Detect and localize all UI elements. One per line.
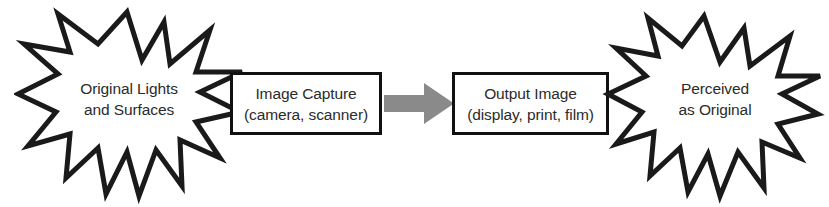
right-arrow-icon [384,83,454,124]
node-output-image: Output Image (display, print, film) [452,72,609,135]
node-perceived-label: Perceived as Original [600,78,829,120]
node-output-label-line2: (display, print, film) [467,104,594,125]
node-perceived-as-original: Perceived as Original [600,0,829,207]
node-image-capture: Image Capture (camera, scanner) [230,72,382,135]
node-perceived-label-line2: as Original [600,99,829,120]
node-capture-label-line1: Image Capture [244,83,368,104]
node-perceived-label-line1: Perceived [600,78,829,99]
arrow-capture-to-output [384,83,454,124]
node-original-lights-and-surfaces: Original Lights and Surfaces [14,0,244,207]
node-capture-label: Image Capture (camera, scanner) [244,83,368,125]
node-original-label-line1: Original Lights [14,78,244,99]
node-original-label-line2: and Surfaces [14,99,244,120]
node-output-label: Output Image (display, print, film) [467,83,594,125]
node-output-label-line1: Output Image [467,83,594,104]
node-original-label: Original Lights and Surfaces [14,78,244,120]
node-capture-label-line2: (camera, scanner) [244,104,368,125]
